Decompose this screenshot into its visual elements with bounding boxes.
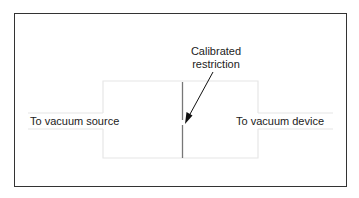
restriction-label: Calibrated restriction	[180, 45, 252, 70]
restriction-label-line2: restriction	[180, 58, 252, 71]
vacuum-device-label: To vacuum device	[236, 115, 324, 127]
restriction-diagram	[0, 0, 359, 198]
restriction-label-line1: Calibrated	[180, 45, 252, 58]
vacuum-source-label: To vacuum source	[30, 115, 119, 127]
arrow-icon	[185, 72, 213, 124]
